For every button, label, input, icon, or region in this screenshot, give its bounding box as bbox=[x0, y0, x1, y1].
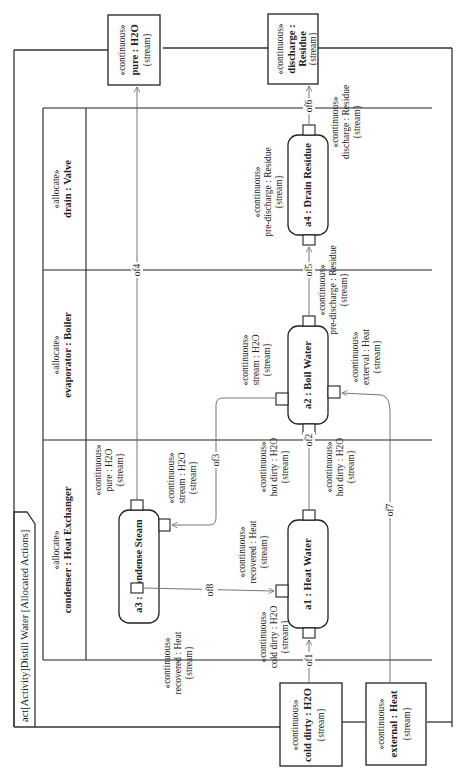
svg-text:hot dirty : H2O: hot dirty : H2O bbox=[335, 438, 345, 496]
svg-text:«continuous»: «continuous» bbox=[252, 166, 262, 217]
pin-label-a1-in-recovered: «continuous» recovered : Heat {stream} bbox=[237, 520, 269, 583]
pin-a1-in-recovered[interactable] bbox=[276, 585, 288, 597]
activity-frame bbox=[14, 48, 452, 727]
param-stereotype: «continuous» bbox=[275, 23, 285, 74]
svg-text:recovered : Heat: recovered : Heat bbox=[248, 520, 258, 583]
partition-stereotype: «allocate» bbox=[51, 169, 61, 208]
svg-text:stream : H2O: stream : H2O bbox=[251, 334, 261, 385]
flow-label-of7: of7 bbox=[385, 503, 395, 516]
param-cold-dirty-h2o[interactable]: «continuous» cold dirty : H2O {stream} bbox=[280, 683, 342, 766]
partition-name: evaporator : Boiler bbox=[62, 312, 73, 398]
pin-a1-out-hot[interactable] bbox=[303, 510, 315, 520]
flow-label-of6: of6 bbox=[304, 99, 314, 112]
svg-text:{stream}: {stream} bbox=[339, 273, 349, 307]
frame-title-tab: act[Activity]Distill Water [Allocated Ac… bbox=[14, 512, 35, 727]
svg-text:{stream}: {stream} bbox=[280, 450, 290, 484]
flow-label-of5: of5 bbox=[304, 263, 314, 276]
svg-text:pre-discharge : Residue: pre-discharge : Residue bbox=[328, 245, 338, 335]
param-stereotype: «continuous» bbox=[117, 24, 127, 75]
param-stereotype: «continuous» bbox=[376, 698, 386, 749]
param-external-heat[interactable]: «continuous» external : Heat {stream} bbox=[366, 683, 426, 765]
pin-a2-out-stream[interactable] bbox=[276, 393, 288, 405]
flow-label-of2: of2 bbox=[304, 433, 314, 446]
flow-label-of8: of8 bbox=[205, 583, 215, 596]
pin-label-a2-in-external: «continuous» exterval : Heat {stream} bbox=[350, 329, 382, 385]
svg-text:recovered : Heat: recovered : Heat bbox=[173, 631, 183, 694]
svg-text:{stream}: {stream} bbox=[259, 535, 269, 569]
svg-text:«continuous»: «continuous» bbox=[330, 96, 340, 147]
flow-of7[interactable] bbox=[342, 393, 390, 683]
action-label: a3 : Condense Steam bbox=[133, 519, 144, 613]
flow-label-of1: of1 bbox=[304, 653, 314, 666]
svg-text:«continuous»: «continuous» bbox=[258, 611, 268, 662]
param-constraint: {stream} bbox=[142, 33, 152, 67]
frame-title: act[Activity]Distill Water [Allocated Ac… bbox=[19, 530, 30, 722]
pin-a2-out-pre[interactable] bbox=[303, 316, 315, 326]
action-label: a1 : Heat Water bbox=[302, 538, 313, 610]
pin-a4-out-discharge[interactable] bbox=[303, 125, 315, 135]
action-label: a2 : Boil Water bbox=[302, 341, 313, 409]
svg-text:exterval : Heat: exterval : Heat bbox=[361, 329, 371, 385]
svg-text:{stream}: {stream} bbox=[352, 105, 362, 139]
pin-label-a1-in-cold: «continuous» cold dirty : H2O {stream} bbox=[258, 606, 290, 669]
pin-a3-in-stream[interactable] bbox=[159, 519, 170, 531]
pin-a3-out-recovered[interactable] bbox=[131, 583, 143, 593]
svg-text:{stream}: {stream} bbox=[115, 453, 125, 487]
param-discharge-residue[interactable]: «continuous» discharge : Residue {stream… bbox=[268, 14, 318, 84]
param-constraint: {stream} bbox=[316, 708, 326, 742]
svg-text:hot dirty : H2O: hot dirty : H2O bbox=[269, 438, 279, 496]
param-name: external : Heat bbox=[388, 690, 399, 758]
param-constraint: {stream} bbox=[308, 32, 318, 66]
svg-text:«continuous»: «continuous» bbox=[350, 331, 360, 382]
pin-label-a2-in-hot: «continuous» hot dirty : H2O {stream} bbox=[258, 438, 290, 496]
param-name: discharge : bbox=[286, 24, 297, 73]
svg-text:cold dirty : H2O: cold dirty : H2O bbox=[269, 606, 279, 669]
svg-text:«continuous»: «continuous» bbox=[324, 441, 334, 492]
pin-a4-in-pre[interactable] bbox=[303, 235, 315, 245]
action-a1-heat-water[interactable]: a1 : Heat Water bbox=[276, 510, 328, 638]
partition-name: drain : Valve bbox=[62, 160, 73, 218]
flow-label-of3: of3 bbox=[211, 453, 221, 466]
svg-text:{stream}: {stream} bbox=[188, 461, 198, 495]
svg-text:«continuous»: «continuous» bbox=[162, 637, 172, 688]
partition-name: condenser : Heat Exchanger bbox=[62, 486, 73, 613]
action-a3-condense-steam[interactable]: a3 : Condense Steam bbox=[119, 500, 170, 623]
pin-label-a3-out-recovered: «continuous» recovered : Heat {stream} bbox=[162, 631, 194, 694]
svg-text:stream : H2O: stream : H2O bbox=[177, 452, 187, 503]
pin-label-a2-out-stream: «continuous» stream : H2O {stream} bbox=[240, 334, 272, 385]
partition-evaporator: «allocate» evaporator : Boiler bbox=[51, 312, 73, 398]
pin-a2-in-external[interactable] bbox=[328, 386, 340, 398]
pin-label-a1-out-hot: «continuous» hot dirty : H2O {stream} bbox=[324, 438, 356, 496]
param-name: pure : H2O bbox=[129, 24, 140, 75]
param-name-cont: Residue bbox=[297, 31, 308, 67]
pin-label-a3-in-stream: «continuous» stream : H2O {stream} bbox=[166, 452, 198, 503]
partition-stereotype: «allocate» bbox=[51, 530, 61, 569]
svg-text:«continuous»: «continuous» bbox=[258, 441, 268, 492]
partition-stereotype: «allocate» bbox=[51, 335, 61, 374]
flow-label-of4: of4 bbox=[132, 263, 142, 276]
svg-text:«continuous»: «continuous» bbox=[240, 334, 250, 385]
param-stereotype: «continuous» bbox=[290, 699, 300, 750]
svg-text:{stream}: {stream} bbox=[274, 175, 284, 209]
partition-drain: «allocate» drain : Valve bbox=[51, 160, 73, 218]
svg-text:«continuous»: «continuous» bbox=[317, 264, 327, 315]
action-label: a4 : Drain Residue bbox=[302, 143, 313, 227]
svg-text:{stream}: {stream} bbox=[262, 343, 272, 377]
svg-text:pre-discharge : Residue: pre-discharge : Residue bbox=[263, 147, 273, 237]
svg-text:{stream}: {stream} bbox=[184, 646, 194, 680]
svg-text:«continuous»: «continuous» bbox=[166, 452, 176, 503]
svg-text:{stream}: {stream} bbox=[346, 450, 356, 484]
action-a4-drain-residue[interactable]: a4 : Drain Residue bbox=[288, 125, 328, 245]
svg-text:«continuous»: «continuous» bbox=[93, 444, 103, 495]
svg-text:{stream}: {stream} bbox=[372, 340, 382, 374]
svg-text:discharge : Residue: discharge : Residue bbox=[341, 85, 351, 159]
svg-text:{stream}: {stream} bbox=[280, 620, 290, 654]
svg-text:pure : H2O: pure : H2O bbox=[104, 448, 114, 491]
param-name: cold dirty : H2O bbox=[302, 688, 313, 762]
pin-a1-in-cold[interactable] bbox=[303, 628, 315, 638]
param-pure-h2o[interactable]: «continuous» pure : H2O {stream} bbox=[108, 15, 160, 85]
pin-a3-out-pure[interactable] bbox=[131, 500, 143, 510]
activity-diagram: act[Activity]Distill Water [Allocated Ac… bbox=[0, 0, 467, 768]
pin-label-a2-out-pre: «continuous» pre-discharge : Residue {st… bbox=[317, 245, 349, 335]
param-constraint: {stream} bbox=[402, 707, 412, 741]
